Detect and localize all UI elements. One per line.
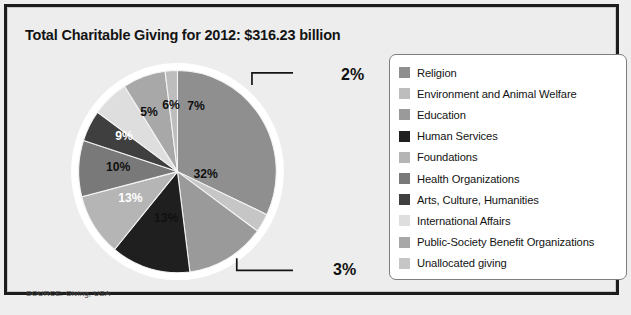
legend-item-label: Health Organizations [417, 173, 519, 185]
pie-slice-label: 32% [193, 167, 218, 181]
legend-item-label: Environment and Animal Welfare [417, 88, 577, 100]
legend-item-label: Education [417, 109, 466, 121]
legend-item-label: Human Services [417, 130, 498, 142]
legend-swatch-icon [399, 88, 410, 99]
legend-item-label: Public-Society Benefit Organizations [417, 236, 594, 248]
legend-swatch-icon [399, 67, 410, 78]
pie-slice-label: 13% [154, 211, 179, 225]
chart-title: Total Charitable Giving for 2012: $316.2… [25, 27, 340, 43]
legend-item[interactable]: Environment and Animal Welfare [399, 83, 626, 104]
legend-swatch-icon [399, 109, 410, 120]
legend-item[interactable]: International Affairs [399, 210, 626, 231]
legend-swatch-icon [399, 237, 410, 248]
legend-swatch-icon [399, 173, 410, 184]
legend-item[interactable]: Human Services [399, 126, 626, 147]
legend-swatch-icon [399, 131, 410, 142]
legend-item[interactable]: Arts, Culture, Humanities [399, 189, 626, 210]
pie-slice-label: 7% [187, 99, 205, 113]
legend-item-label: Religion [417, 67, 457, 79]
chart-figure: Total Charitable Giving for 2012: $316.2… [0, 0, 631, 315]
source-note: SOURCE: Giving, USA [26, 289, 110, 298]
legend-swatch-icon [399, 152, 410, 163]
legend-item[interactable]: Public-Society Benefit Organizations [399, 232, 626, 253]
legend-item[interactable]: Religion [399, 62, 626, 83]
figure-frame: Total Charitable Giving for 2012: $316.2… [4, 4, 619, 295]
pie-slice-label: 10% [106, 160, 131, 174]
legend-item-label: Arts, Culture, Humanities [417, 194, 539, 206]
legend-item-label: International Affairs [417, 215, 510, 227]
pie-slice-label: 6% [162, 98, 180, 112]
legend-swatch-icon [399, 194, 410, 205]
pie-slice-label: 9% [115, 129, 133, 143]
callout-line-2pct [252, 73, 293, 85]
callout-label-3pct: 3% [333, 261, 356, 278]
legend-swatch-icon [399, 258, 410, 269]
pie-slice-label: 5% [140, 105, 158, 119]
pie-chart: 32%13%13%10%9%5%6%7% [65, 59, 293, 285]
legend-item-label: Foundations [417, 151, 477, 163]
legend-swatch-icon [399, 215, 410, 226]
callout-labels: 2% 3% [293, 59, 403, 285]
legend-item[interactable]: Health Organizations [399, 168, 626, 189]
callout-label-2pct: 2% [341, 66, 364, 83]
legend-item[interactable]: Unallocated giving [399, 253, 626, 274]
pie-chart-svg: 32%13%13%10%9%5%6%7% [65, 59, 293, 285]
legend-item[interactable]: Foundations [399, 147, 626, 168]
chart-legend: ReligionEnvironment and Animal WelfareEd… [389, 54, 627, 280]
legend-item[interactable]: Education [399, 104, 626, 125]
pie-slice-label: 13% [118, 191, 143, 205]
legend-list: ReligionEnvironment and Animal WelfareEd… [399, 62, 626, 274]
legend-item-label: Unallocated giving [417, 257, 507, 269]
callout-line-3pct [237, 258, 293, 270]
